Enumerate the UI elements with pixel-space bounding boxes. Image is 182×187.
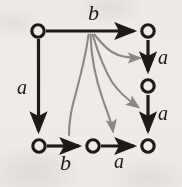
label-a-right-lower: a [158,103,168,123]
edge-gray-3 [91,35,114,132]
gray-curve-group [69,35,140,136]
label-a-bottom: a [114,151,124,171]
label-b-bottom: b [60,152,71,174]
node-n-top-right[interactable] [142,25,154,37]
diagram-svg [0,0,182,187]
node-n-bottom-middle[interactable] [87,140,99,152]
label-a-right-upper: a [158,47,168,67]
node-n-top-left[interactable] [32,25,44,37]
node-n-mid-right[interactable] [142,80,154,92]
diagram-canvas: b a a a b a [0,0,182,187]
edge-gray-4 [69,35,89,136]
node-group [32,25,154,152]
label-b-top: b [88,2,99,24]
edge-gray-1 [95,35,140,59]
edge-gray-2 [93,35,139,108]
node-n-bottom-left[interactable] [33,140,45,152]
black-arrow-group [39,31,149,146]
node-n-bottom-right[interactable] [142,140,154,152]
label-a-left: a [17,77,27,97]
